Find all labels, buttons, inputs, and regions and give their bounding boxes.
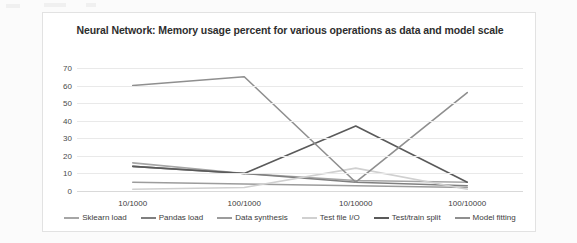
legend-swatch-icon	[302, 217, 317, 219]
slide-background: Neural Network: Memory usage percent for…	[0, 0, 577, 243]
x-axis-label: 10/10000	[300, 199, 412, 208]
y-axis-label: 70	[63, 64, 72, 73]
legend-item[interactable]: Pandas load	[141, 213, 203, 222]
legend-swatch-icon	[455, 217, 470, 219]
legend-label: Test/train split	[392, 213, 441, 222]
x-axis-label: 10/1000	[77, 199, 189, 208]
chart-title: Neural Network: Memory usage percent for…	[67, 23, 513, 38]
legend-label: Sklearn load	[82, 213, 126, 222]
y-axis-label: 20	[63, 151, 72, 160]
gridline	[77, 138, 523, 139]
gridline	[77, 173, 523, 174]
scan-artifact-1	[6, 4, 20, 8]
gridline	[77, 86, 523, 87]
y-axis-label: 40	[63, 116, 72, 125]
scan-artifact-2	[44, 3, 66, 7]
legend-item[interactable]: Data synthesis	[217, 213, 287, 222]
y-axis-label: 0	[68, 187, 72, 196]
y-axis-label: 60	[63, 81, 72, 90]
gridline	[77, 103, 523, 104]
x-axis-ticks: 10/1000100/100010/10000100/10000	[77, 199, 523, 208]
x-axis-label: 100/1000	[189, 199, 301, 208]
gridline	[77, 191, 523, 192]
gridline	[77, 156, 523, 157]
legend-label: Test file I/O	[320, 213, 360, 222]
y-axis-label: 50	[63, 99, 72, 108]
legend-swatch-icon	[64, 217, 79, 219]
legend-swatch-icon	[374, 217, 389, 219]
legend-item[interactable]: Test/train split	[374, 213, 441, 222]
x-axis-label: 100/10000	[412, 199, 524, 208]
series-line	[133, 77, 468, 182]
gridline	[77, 68, 523, 69]
gridline	[77, 121, 523, 122]
chart-legend: Sklearn loadPandas loadData synthesisTes…	[51, 213, 529, 222]
plot-area: 010203040506070	[77, 68, 523, 191]
legend-item[interactable]: Sklearn load	[64, 213, 126, 222]
legend-item[interactable]: Model fitting	[455, 213, 516, 222]
y-axis-label: 10	[63, 169, 72, 178]
legend-swatch-icon	[217, 217, 232, 219]
legend-swatch-icon	[141, 217, 156, 219]
legend-item[interactable]: Test file I/O	[302, 213, 360, 222]
legend-label: Data synthesis	[235, 213, 287, 222]
chart-container: Neural Network: Memory usage percent for…	[42, 12, 536, 232]
scan-artifact-3	[86, 3, 96, 7]
y-axis-label: 30	[63, 134, 72, 143]
legend-label: Pandas load	[159, 213, 203, 222]
legend-label: Model fitting	[473, 213, 516, 222]
